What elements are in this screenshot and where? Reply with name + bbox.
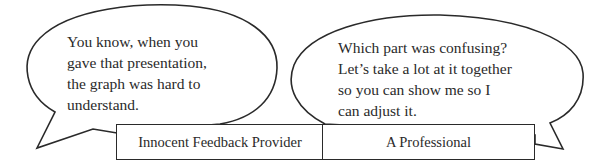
speech-line: Which part was confusing?	[338, 37, 512, 58]
speech-line: can adjust it.	[338, 100, 512, 121]
speech-line: so you can show me so I	[338, 79, 512, 100]
speaker-label-professional: A Professional	[322, 124, 535, 160]
speaker-label-feedback-provider: Innocent Feedback Provider	[116, 124, 324, 160]
right-speech-text: Which part was confusing? Let’s take a l…	[338, 37, 512, 121]
speech-line: Let’s take a lot at it together	[338, 58, 512, 79]
speech-line: gave that presentation,	[67, 52, 207, 73]
left-speech-text: You know, when you gave that presentatio…	[67, 31, 207, 115]
dialogue-diagram: You know, when you gave that presentatio…	[0, 0, 604, 167]
speech-line: the graph was hard to	[67, 73, 207, 94]
speech-line: understand.	[67, 94, 207, 115]
speech-line: You know, when you	[67, 31, 207, 52]
